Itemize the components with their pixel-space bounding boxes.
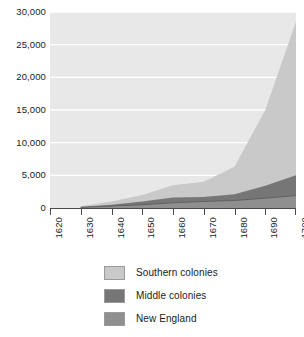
legend-swatch-icon — [104, 312, 125, 326]
legend-label: Southern colonies — [136, 267, 218, 278]
x-tick-mark — [142, 208, 143, 215]
legend-item[interactable]: Middle colonies — [104, 284, 284, 307]
legend-label: New England — [136, 313, 197, 324]
legend-swatch-icon — [104, 266, 125, 280]
y-axis: 05,00010,00015,00020,00025,00030,000 — [0, 0, 46, 337]
y-tick-label: 25,000 — [0, 40, 46, 50]
area-series-southern-colonies — [81, 22, 296, 208]
x-tick-label: 1690 — [269, 216, 279, 238]
x-tick-label: 1680 — [239, 216, 249, 238]
x-tick-label: 1620 — [54, 216, 64, 238]
x-tick-mark — [295, 208, 296, 215]
legend-label: Middle colonies — [136, 290, 206, 301]
legend-item[interactable]: Southern colonies — [104, 261, 284, 284]
x-tick-label: 1650 — [146, 216, 156, 238]
x-tick-mark — [204, 208, 205, 215]
x-tick-label: 1660 — [177, 216, 187, 238]
plot-canvas — [50, 12, 296, 208]
x-tick-mark — [265, 208, 266, 215]
x-tick-mark — [173, 208, 174, 215]
x-tick-mark — [50, 208, 51, 215]
legend-item[interactable]: New England — [104, 307, 284, 330]
y-tick-label: 5,000 — [0, 170, 46, 180]
area-series-group — [81, 22, 296, 208]
x-axis-labels: 162016301640165016601670168016901700 — [50, 216, 296, 256]
x-tick-label: 1700 — [300, 216, 304, 238]
x-tick-mark — [112, 208, 113, 215]
x-tick-label: 1640 — [116, 216, 126, 238]
legend-swatch-icon — [104, 289, 125, 303]
x-tick-label: 1670 — [208, 216, 218, 238]
chart-legend: Southern coloniesMiddle coloniesNew Engl… — [104, 261, 284, 330]
y-tick-label: 0 — [0, 203, 46, 213]
x-tick-label: 1630 — [85, 216, 95, 238]
plot-area — [50, 12, 296, 208]
y-tick-label: 15,000 — [0, 105, 46, 115]
x-tick-mark — [81, 208, 82, 215]
x-axis — [50, 208, 296, 216]
y-tick-label: 10,000 — [0, 138, 46, 148]
x-tick-mark — [235, 208, 236, 215]
y-tick-label: 20,000 — [0, 72, 46, 82]
y-tick-label: 30,000 — [0, 7, 46, 17]
stacked-area-chart: 05,00010,00015,00020,00025,00030,000 162… — [0, 0, 304, 337]
